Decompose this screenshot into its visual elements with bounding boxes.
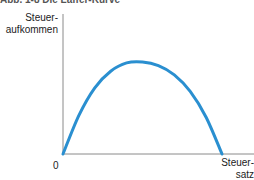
- x-axis-label-line-1: Steuer-: [214, 157, 254, 169]
- chart-plot: [0, 0, 254, 180]
- x-axis-label: Steuer- satz: [214, 157, 254, 180]
- laffer-curve: [63, 62, 222, 154]
- x-axis-label-line-2: satz: [214, 169, 254, 180]
- origin-label: 0: [53, 160, 59, 171]
